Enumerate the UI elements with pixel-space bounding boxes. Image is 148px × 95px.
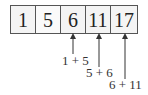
annotation-label: 1 + 5 — [62, 54, 89, 67]
annotation-label: 6 + 11 — [109, 78, 142, 91]
